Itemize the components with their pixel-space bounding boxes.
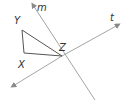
label-t: t	[110, 12, 115, 23]
triangle-xyz	[22, 30, 62, 56]
geometry-diagram: m t Y X Z	[0, 0, 123, 102]
label-y: Y	[14, 15, 21, 26]
label-x: X	[17, 59, 26, 70]
label-z: Z	[58, 42, 67, 53]
label-m: m	[37, 2, 47, 13]
line-t	[62, 25, 118, 56]
